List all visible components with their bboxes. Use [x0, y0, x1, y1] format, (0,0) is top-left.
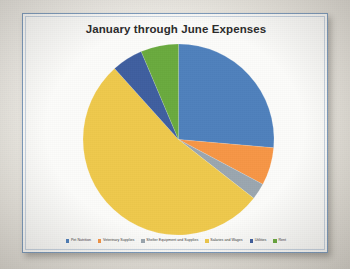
legend-item-label: Rent	[278, 239, 286, 243]
legend-item-label: Shelter Equipment and Supplies	[146, 239, 198, 243]
legend-item[interactable]: Utilities	[250, 239, 267, 243]
pie-slice[interactable]	[179, 44, 275, 148]
legend-item[interactable]: Rent	[273, 239, 286, 243]
legend-item-label: Salaries and Wages	[210, 239, 242, 243]
legend-item-label: Pet Nutrition	[71, 239, 91, 243]
legend-item-label: Utilities	[255, 239, 267, 243]
legend-item-label: Veterinary Supplies	[103, 239, 134, 243]
legend-swatch-icon	[205, 239, 209, 243]
legend-item[interactable]: Salaries and Wages	[205, 239, 242, 243]
legend-swatch-icon	[250, 239, 254, 243]
legend-swatch-icon	[66, 239, 70, 243]
legend-item[interactable]: Shelter Equipment and Supplies	[141, 239, 198, 243]
chart-legend: Pet NutritionVeterinary SuppliesShelter …	[23, 239, 329, 243]
legend-swatch-icon	[273, 239, 277, 243]
pie-chart-plot-area	[23, 14, 329, 254]
legend-item[interactable]: Pet Nutrition	[66, 239, 91, 243]
legend-swatch-icon	[141, 239, 145, 243]
legend-item[interactable]: Veterinary Supplies	[98, 239, 134, 243]
legend-swatch-icon	[98, 239, 102, 243]
chart-card: January through June Expenses Pet Nutrit…	[22, 13, 328, 253]
pie-slice-group	[83, 44, 274, 235]
pie-chart-svg	[23, 14, 329, 254]
